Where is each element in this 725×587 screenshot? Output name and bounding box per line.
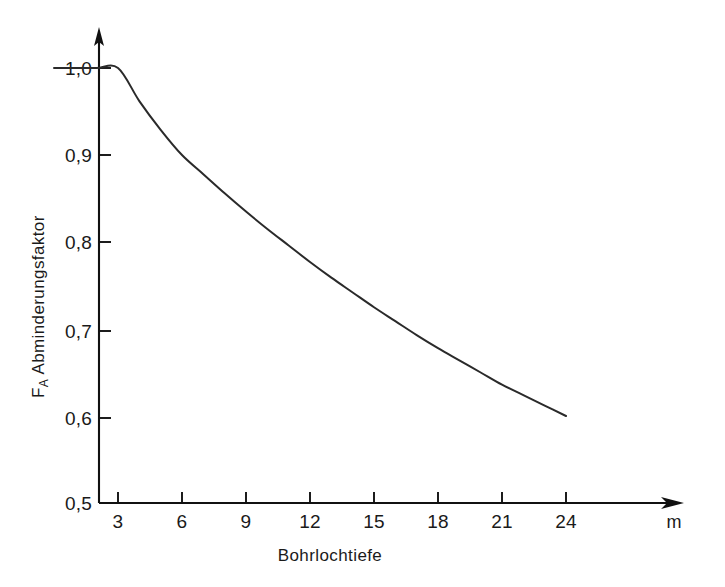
y-axis-title-main: Abminderungsfaktor (29, 215, 48, 374)
x-tick-label-5: 18 (427, 511, 449, 532)
chart-canvas: 0,5 0,6 0,7 0,8 0,9 1,0 3 6 9 12 15 18 2… (0, 0, 725, 587)
y-tick-label-0: 0,5 (65, 493, 92, 514)
y-axis-title-group: FA Abminderungsfaktor (29, 215, 51, 398)
y-axis-title-subscript: A (37, 379, 51, 387)
svg-text:FA Abminderungsfaktor: FA Abminderungsfaktor (29, 215, 51, 398)
y-tick-label-2: 0,7 (65, 321, 92, 342)
chart-figure: 0,5 0,6 0,7 0,8 0,9 1,0 3 6 9 12 15 18 2… (0, 0, 725, 587)
x-tick-label-6: 21 (491, 511, 513, 532)
y-axis-ticks (99, 68, 111, 418)
y-axis-title-symbol: F (29, 387, 48, 398)
x-tick-label-3: 12 (299, 511, 321, 532)
x-tick-label-2: 9 (241, 511, 252, 532)
x-tick-label-7: 24 (555, 511, 577, 532)
x-axis-ticks (118, 492, 566, 503)
x-tick-label-0: 3 (113, 511, 124, 532)
x-tick-label-4: 15 (363, 511, 385, 532)
x-tick-label-1: 6 (177, 511, 188, 532)
x-axis-title: Bohrlochtiefe (278, 546, 382, 565)
y-tick-label-4: 0,9 (65, 145, 92, 166)
y-tick-label-3: 0,8 (65, 232, 92, 253)
data-series-line (54, 66, 566, 416)
x-axis-unit-label: m (667, 512, 682, 532)
y-tick-label-1: 0,6 (65, 408, 92, 429)
